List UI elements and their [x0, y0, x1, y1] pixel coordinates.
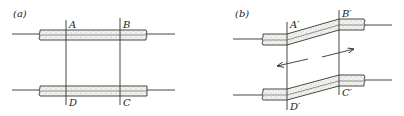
point-a-label: A	[68, 19, 76, 30]
shear-diagram: (a) A B D C (b)	[0, 0, 404, 116]
upper-strip-b	[233, 19, 392, 45]
lower-strip-a	[12, 86, 175, 96]
panel-a: (a) A B D C	[12, 8, 175, 108]
point-d-label: D	[68, 97, 77, 108]
panel-b-label: (b)	[235, 8, 249, 19]
point-b-prime-label: B′	[341, 8, 352, 19]
panel-b: (b) A′ B′ D′ C′	[233, 8, 392, 112]
lower-strip-b	[233, 75, 392, 100]
arrow-left-icon	[277, 59, 308, 66]
point-b-label: B	[122, 19, 130, 30]
point-c-label: C	[123, 97, 131, 108]
panel-a-label: (a)	[13, 8, 27, 19]
upper-strip-a	[12, 30, 175, 40]
arrow-right-icon	[322, 49, 354, 57]
point-c-prime-label: C′	[342, 87, 353, 98]
point-a-prime-label: A′	[289, 19, 300, 30]
point-d-prime-label: D′	[289, 101, 301, 112]
